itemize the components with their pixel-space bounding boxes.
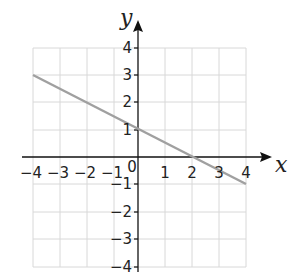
x-tick-label: −3: [47, 164, 69, 182]
x-tick-labels: −4 −3 −2 −1 0 1 2 3 4: [20, 158, 251, 182]
coordinate-plane: −4 −3 −2 −1 0 1 2 3 4 4 3 2 1 −1 −2 −3 −…: [0, 0, 302, 277]
x-tick-label: 2: [187, 164, 197, 182]
x-tick-label: −2: [74, 164, 96, 182]
y-tick-label: 1: [122, 121, 132, 139]
axes: [22, 30, 262, 272]
x-tick-label: 3: [214, 164, 224, 182]
y-tick-label: 3: [122, 66, 132, 84]
y-tick-label: −3: [110, 230, 132, 248]
y-tick-label: −1: [110, 175, 132, 193]
y-tick-label: −4: [110, 258, 132, 276]
x-tick-label: 1: [160, 164, 170, 182]
x-tick-label: −4: [20, 164, 42, 182]
y-tick-label: −2: [110, 203, 132, 221]
origin-label: 0: [127, 158, 137, 176]
y-tick-label: 4: [122, 39, 132, 57]
y-tick-label: 2: [122, 93, 132, 111]
x-tick-label: 4: [241, 164, 251, 182]
y-axis-label: y: [119, 5, 133, 30]
x-axis-label: x: [275, 152, 288, 177]
